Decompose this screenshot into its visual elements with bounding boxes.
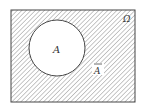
venn-diagram: A Ω A — [0, 0, 145, 111]
set-a-label: A — [52, 44, 60, 55]
complement-label: A — [93, 66, 101, 76]
universe-label: Ω — [122, 14, 131, 24]
